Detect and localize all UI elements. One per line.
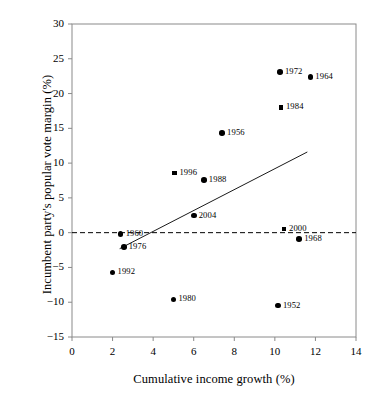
- data-point-2000: [282, 227, 286, 231]
- data-point-2004: [191, 213, 197, 219]
- data-point-label-2000: 2000: [289, 223, 307, 233]
- data-point-1964: [308, 74, 314, 80]
- y-tick-label: 0: [30, 226, 64, 238]
- x-tick-label: 12: [300, 345, 330, 357]
- data-point-label-2004: 2004: [199, 210, 217, 220]
- data-point-label-1988: 1988: [209, 174, 227, 184]
- y-tick-label: 30: [30, 17, 64, 29]
- x-tick-label: 14: [341, 345, 371, 357]
- y-tick-label: 15: [30, 121, 64, 133]
- data-point-1996: [172, 171, 176, 175]
- scatter-plot-figure: Incumbent party's popular vote margin (%…: [0, 0, 376, 406]
- data-point-label-1992: 1992: [118, 266, 136, 276]
- x-tick-label: 4: [138, 345, 168, 357]
- x-tick-label: 0: [57, 345, 87, 357]
- data-point-1976: [121, 244, 127, 250]
- data-point-label-1972: 1972: [285, 66, 303, 76]
- y-tick-label: −15: [30, 330, 64, 342]
- y-tick-label: 10: [30, 156, 64, 168]
- x-axis-title: Cumulative income growth (%): [72, 372, 356, 387]
- y-tick-label: 5: [30, 191, 64, 203]
- x-tick-label: 2: [98, 345, 128, 357]
- data-point-1968: [296, 236, 302, 242]
- data-point-label-1968: 1968: [304, 233, 322, 243]
- data-point-1984: [279, 105, 283, 109]
- y-tick-label: −5: [30, 260, 64, 272]
- data-point-label-1964: 1964: [315, 71, 333, 81]
- y-axis-title: Incumbent party's popular vote margin (%…: [40, 35, 55, 335]
- data-point-1988: [201, 177, 207, 183]
- data-point-label-1952: 1952: [283, 300, 301, 310]
- x-tick-label: 6: [179, 345, 209, 357]
- data-point-label-1984: 1984: [286, 101, 304, 111]
- data-point-1956: [219, 130, 225, 136]
- x-tick-label: 8: [219, 345, 249, 357]
- data-point-label-1996: 1996: [179, 167, 197, 177]
- y-tick-label: −10: [30, 295, 64, 307]
- data-point-label-1956: 1956: [227, 127, 245, 137]
- data-point-label-1960: 1960: [126, 228, 144, 238]
- data-point-1972: [277, 69, 283, 75]
- y-tick-label: 20: [30, 87, 64, 99]
- data-point-1960: [118, 231, 124, 237]
- x-tick-label: 10: [260, 345, 290, 357]
- data-point-label-1976: 1976: [129, 241, 147, 251]
- data-point-label-1980: 1980: [178, 293, 196, 303]
- y-tick-label: 25: [30, 52, 64, 64]
